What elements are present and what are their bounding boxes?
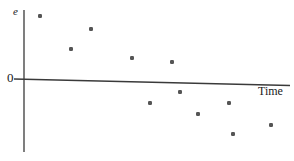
data-point: [178, 90, 182, 94]
data-point: [89, 27, 93, 31]
residual-scatter-plot-figure: e 0 Time: [0, 0, 294, 161]
data-points-group: [38, 14, 273, 136]
data-point: [227, 101, 231, 105]
data-point: [196, 112, 200, 116]
data-point: [148, 101, 152, 105]
x-axis-label: Time: [258, 85, 283, 97]
data-point: [69, 47, 73, 51]
data-point: [170, 60, 174, 64]
y-axis-label: e: [13, 6, 18, 17]
plot-canvas: [0, 0, 294, 161]
x-axis-line: [14, 79, 290, 86]
data-point: [38, 14, 42, 18]
origin-tick-label: 0: [7, 71, 14, 84]
data-point: [130, 56, 134, 60]
data-point: [231, 132, 235, 136]
axes-group: [14, 10, 290, 152]
data-point: [269, 123, 273, 127]
